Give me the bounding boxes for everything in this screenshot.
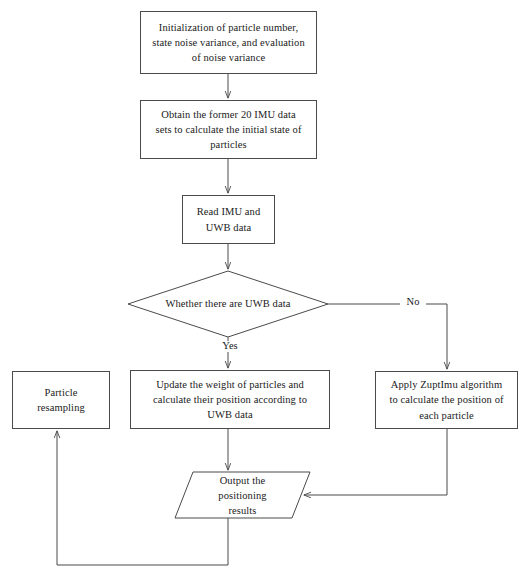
flowchart-diagram: Initialization of particle number, state… xyxy=(0,0,530,579)
node-update-shape xyxy=(131,371,330,429)
node-init-shape xyxy=(141,12,317,74)
flowchart-shapes-and-connectors xyxy=(0,0,530,579)
node-resampling-shape xyxy=(13,372,110,429)
connector-decision-no-to-zupt xyxy=(328,304,447,369)
connector-output-to-resampling-feedback xyxy=(57,431,228,565)
node-output-shape xyxy=(175,472,310,518)
connector-zupt-to-output xyxy=(304,429,447,496)
node-obtain-shape xyxy=(141,101,317,159)
node-zupt-shape xyxy=(376,372,518,429)
node-decision-shape xyxy=(128,271,328,337)
node-read-shape xyxy=(183,196,275,244)
